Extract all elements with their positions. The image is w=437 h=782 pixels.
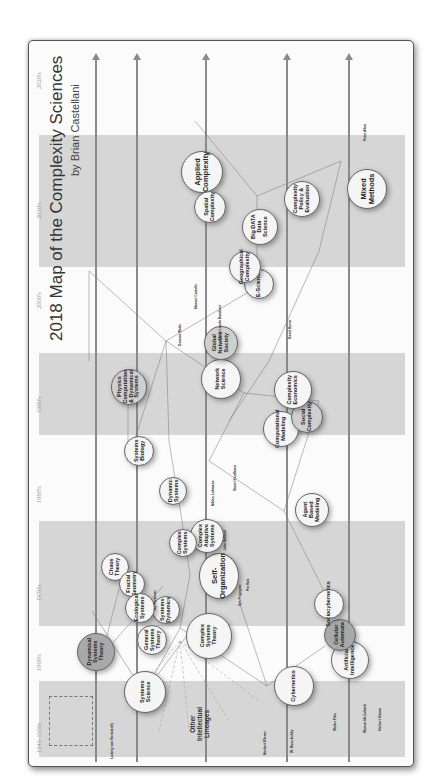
person-tag: Norbert Wiener [264, 731, 268, 755]
person-tag: Ludwig von Bertalanffy [111, 723, 115, 759]
early-figures-box [49, 696, 93, 746]
node-physics-computation[interactable]: Physics Computation & Dynamical Systems [111, 369, 147, 405]
node-cybernetics[interactable]: Cybernetics [274, 666, 314, 706]
person-tag: Warren McCulloch [364, 704, 368, 733]
person-tag: Herbert Simon [379, 708, 383, 731]
node-network-science[interactable]: Network Science [201, 359, 241, 399]
person-tag: Stuart Kauffman [234, 465, 238, 491]
node-dynamical-systems-theory[interactable]: Dynamical Systems Theory [77, 633, 115, 671]
person-tag: Niklas Luhmann [212, 481, 216, 506]
person-tag: Duncan Watts [179, 324, 183, 346]
other-lineages-label: Other Intellectual Lineages [189, 707, 210, 741]
person-tag: Albert-Laszlo Barabasi [219, 305, 223, 341]
node-spatial-complexity[interactable]: Spatial Complexity [194, 191, 226, 223]
node-ecological-systems[interactable]: Ecological Systems [125, 593, 155, 623]
node-complex-systems-theory[interactable]: Complex Systems Theory [186, 613, 232, 659]
node-applied-complexity[interactable]: Applied Complexity [181, 151, 223, 193]
node-general-systems-theory[interactable]: General Systems Theory [137, 625, 167, 655]
person-tag: Jay Forrester [154, 590, 158, 611]
person-tag: John Holland [224, 530, 228, 551]
node-dynamic-systems[interactable]: Dynamic Systems [159, 477, 187, 505]
node-complex-systems[interactable]: Complex Systems [169, 529, 197, 557]
person-tag: David Byrne [289, 320, 293, 339]
node-systems-biology[interactable]: Systems Biology [124, 436, 154, 466]
node-self-organization[interactable]: Self- Organization [199, 553, 239, 599]
node-sociocybernetics[interactable]: Sociocybernetics [314, 589, 344, 619]
person-tag: Per Bak [247, 579, 251, 591]
person-tag: Ilya Prigogine [239, 584, 243, 606]
node-big-data[interactable]: Big DATA Data Science [242, 209, 278, 245]
node-geographical-complexity[interactable]: Geographical Complexity [229, 251, 261, 283]
node-systems-science[interactable]: Systems Science [124, 671, 166, 713]
person-tag: Manuel Castells [195, 284, 199, 309]
node-agent-based-modeling[interactable]: Agent Based Modeling [295, 493, 329, 527]
node-complexity-economics[interactable]: Complexity Economics [274, 371, 312, 409]
node-mixed-methods[interactable]: Mixed Methods [347, 169, 387, 209]
person-tag: W. Ross Ashby [291, 729, 295, 753]
person-tag: Walter Pitts [334, 713, 338, 731]
map-frame: 2020's 2010's 2000's 1990's 1980's 1970'… [28, 40, 414, 767]
node-complexity-policy[interactable]: Complexity Policy & Evaluation [284, 181, 320, 217]
person-tag: Peter Allen [364, 124, 368, 141]
